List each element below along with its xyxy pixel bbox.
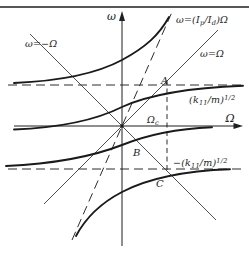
y-axis-arrow-icon	[119, 11, 125, 21]
y-axis-label: ω	[107, 10, 116, 23]
critical-speed-label: Ωc	[146, 114, 159, 127]
backward-line-label: ω=−Ω	[25, 38, 57, 49]
x-axis-label: Ω	[224, 112, 234, 125]
point-b-label: B	[132, 147, 140, 158]
forward-line-label: ω=Ω	[200, 48, 224, 59]
point-a-label: A	[160, 75, 168, 86]
point-c-label: C	[156, 178, 164, 189]
diagram-canvas: ω Ω ω=(Ip/Id)Ω ω=−Ω ω=Ω (k11/m)1/2 −(k11…	[0, 0, 249, 256]
omega-equals-Omega-line	[44, 30, 218, 204]
origin-point	[120, 124, 123, 127]
branch-backward-lower-curve	[76, 169, 230, 236]
upper-asymptote-label: (k11/m)1/2	[189, 94, 235, 108]
frequency-diagram-figure: ω Ω ω=(Ip/Id)Ω ω=−Ω ω=Ω (k11/m)1/2 −(k11…	[0, 0, 249, 256]
x-axis-arrow-icon	[234, 123, 244, 129]
branch-forward-lower-curve	[14, 86, 243, 130]
gyro-asymptote-label: ω=(Ip/Id)Ω	[176, 14, 228, 27]
lower-asymptote-label: −(k11/m)1/2	[173, 157, 228, 171]
branch-forward-upper-curve	[14, 17, 169, 83]
